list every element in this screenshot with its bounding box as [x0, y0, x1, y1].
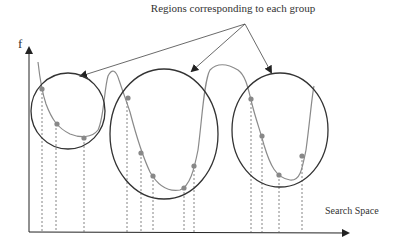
arrow-to-group-1 [81, 24, 245, 76]
sample-point [150, 173, 155, 178]
sample-point [259, 133, 264, 138]
sample-point [248, 96, 253, 101]
diagram-canvas: Regions corresponding to each group f Se… [0, 0, 400, 243]
sample-point [299, 153, 304, 158]
arrow-to-group-2 [192, 24, 245, 71]
sample-point [54, 121, 59, 126]
y-axis-label: f [18, 36, 23, 51]
group-3-region [232, 73, 328, 187]
sample-point [191, 163, 196, 168]
x-axis [29, 232, 348, 233]
sample-point [276, 172, 281, 177]
sample-points [39, 86, 304, 190]
sample-point [125, 95, 130, 100]
group-2-region [110, 69, 218, 199]
sample-point [81, 135, 86, 140]
objective-function-curve [38, 62, 314, 190]
sample-point [138, 150, 143, 155]
sample-point [181, 185, 186, 190]
x-axis-label: Search Space [325, 205, 379, 216]
diagram-title: Regions corresponding to each group [151, 2, 316, 14]
projection-lines [42, 89, 302, 232]
arrow-to-group-3 [245, 24, 271, 72]
sample-point [39, 86, 44, 91]
annotation-arrows [81, 24, 271, 76]
